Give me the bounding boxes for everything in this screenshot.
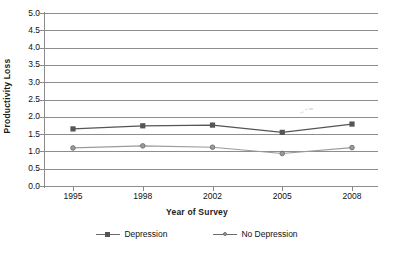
data-point bbox=[70, 126, 75, 131]
data-point bbox=[280, 151, 285, 156]
data-point bbox=[71, 146, 76, 151]
data-point bbox=[140, 123, 145, 128]
data-point bbox=[210, 145, 215, 150]
productivity-loss-line-chart: Productivity Loss 5.04.54.03.53.02.52.01… bbox=[0, 0, 394, 257]
series-layer bbox=[0, 0, 394, 257]
data-point bbox=[350, 145, 355, 150]
data-point bbox=[280, 130, 285, 135]
data-point bbox=[210, 123, 215, 128]
data-point bbox=[349, 121, 354, 126]
data-point bbox=[140, 144, 145, 149]
